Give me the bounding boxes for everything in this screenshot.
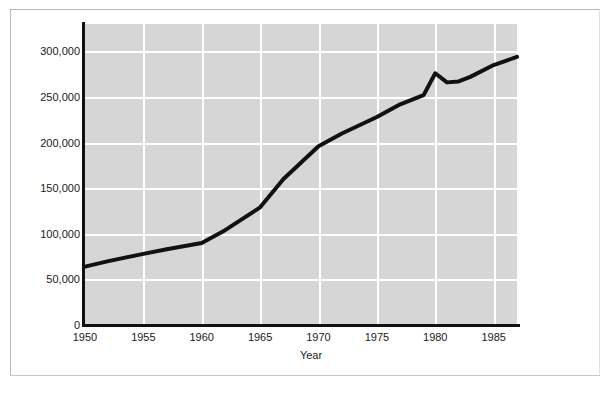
x-axis-title-text: Year <box>300 349 322 361</box>
x-axis-tick-label: 1980 <box>405 331 465 343</box>
x-axis-tick-labels: 19501955196019651970197519801985 <box>0 0 606 394</box>
x-axis-tick-label: 1970 <box>289 331 349 343</box>
x-axis-tick-label: 1960 <box>172 331 232 343</box>
x-axis-tick-label: 1950 <box>55 331 115 343</box>
x-axis-tick-label: 1975 <box>347 331 407 343</box>
chart-figure: 050,000100,000150,000200,000250,000300,0… <box>0 0 606 394</box>
x-axis-title: Year <box>0 349 606 361</box>
x-axis-tick-label: 1965 <box>230 331 290 343</box>
x-axis-tick-label: 1985 <box>464 331 524 343</box>
x-axis-tick-label: 1955 <box>113 331 173 343</box>
